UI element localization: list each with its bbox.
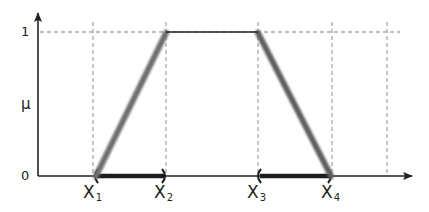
y-axis-label-mu: μ	[21, 97, 31, 112]
x4-subscript: 4	[334, 192, 340, 203]
gridlines	[40, 22, 400, 176]
x-label-x1: X1	[83, 184, 102, 203]
x4-name: X	[321, 182, 333, 202]
falling-slope	[258, 33, 331, 176]
x1-name: X	[83, 182, 95, 202]
x1-subscript: 1	[96, 192, 102, 203]
x3-subscript: 3	[260, 192, 266, 203]
y-tick-zero: 0	[21, 169, 29, 182]
x-label-x3: X3	[247, 184, 266, 203]
x3-name: X	[247, 182, 259, 202]
x2-subscript: 2	[167, 192, 173, 203]
y-tick-one: 1	[21, 25, 29, 38]
membership-diagram	[0, 0, 429, 212]
x2-name: X	[154, 182, 166, 202]
x-label-x2: X2	[154, 184, 173, 203]
x-label-x4: X4	[321, 184, 340, 203]
rising-slope	[96, 33, 166, 176]
